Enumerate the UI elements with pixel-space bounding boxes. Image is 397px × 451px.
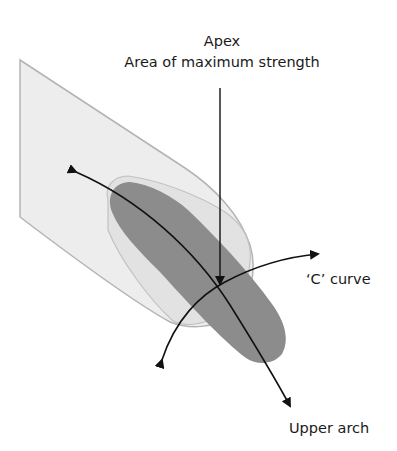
upper-arch-label: Upper arch bbox=[289, 421, 369, 436]
apex-label: Apex bbox=[204, 34, 240, 49]
apex-sub-label: Area of maximum strength bbox=[124, 55, 319, 70]
c-curve-label: ‘C’ curve bbox=[306, 272, 371, 287]
